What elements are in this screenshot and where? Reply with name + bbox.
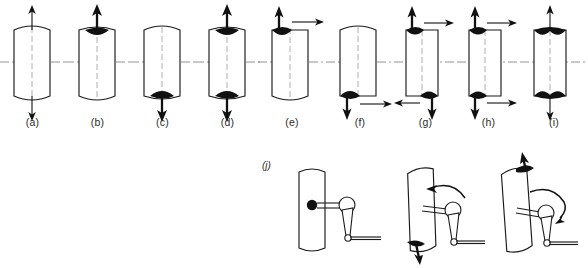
bottom-right-arrow: [487, 99, 517, 106]
top-right-arrow: [292, 18, 324, 25]
bottom-right-arrow: [360, 100, 392, 107]
pivot-dot: [307, 200, 317, 210]
top-up-arrow: [222, 4, 232, 30]
panel-label-g: (g): [394, 116, 457, 128]
mechanism-stage-tilted-right: [482, 152, 588, 268]
panel-a: (a): [0, 0, 65, 140]
top-up-arrow: [408, 6, 417, 30]
panel-label-j: (j): [262, 160, 271, 171]
panel-label-c: (c): [130, 116, 195, 128]
tilted-cylinder-group: [489, 166, 544, 254]
top-right-arrow: [424, 19, 454, 26]
panel-g: (g): [394, 0, 457, 140]
panel-label-i: (i): [520, 116, 588, 128]
panel-h: (h): [457, 0, 520, 140]
panel-f: (f): [326, 0, 394, 140]
panel-i: (i): [520, 0, 588, 140]
top-up-arrow: [275, 6, 284, 30]
crank-arm: [448, 213, 459, 240]
mechanism-stage-2-drawing: [385, 158, 497, 268]
panel-d: (d): [195, 0, 260, 140]
top-up-arrow: [92, 4, 102, 30]
panel-label-e: (e): [258, 116, 326, 128]
panel-b: (b): [65, 0, 130, 140]
figure-canvas: (a) (b) (c): [0, 0, 588, 268]
panel-e: (e): [258, 0, 326, 140]
crank-pin: [345, 235, 351, 241]
crank-arm: [541, 216, 552, 241]
panel-label-a: (a): [0, 116, 65, 128]
bottom-left-arrow: [394, 99, 420, 106]
mechanism-stage-3-drawing: [482, 152, 588, 268]
panel-label-d: (d): [195, 116, 260, 128]
top-right-arrow: [487, 19, 517, 26]
crank-arm: [342, 208, 353, 236]
crank-pin: [451, 239, 457, 245]
panel-label-f: (f): [326, 116, 394, 128]
panel-label-b: (b): [65, 116, 130, 128]
top-up-arrow: [471, 6, 480, 30]
mechanism-stage-upright: [285, 160, 395, 268]
tilted-cylinder-group: [395, 166, 448, 254]
cylinder-body: [489, 166, 544, 254]
cylinder-body: [395, 166, 448, 254]
mechanism-stage-1-drawing: [285, 160, 395, 268]
panel-c: (c): [130, 0, 195, 140]
crank-pin: [544, 240, 550, 246]
mechanism-stage-tilted-left: [385, 158, 497, 268]
top-up-arrow: [546, 5, 553, 30]
panel-label-h: (h): [457, 116, 520, 128]
